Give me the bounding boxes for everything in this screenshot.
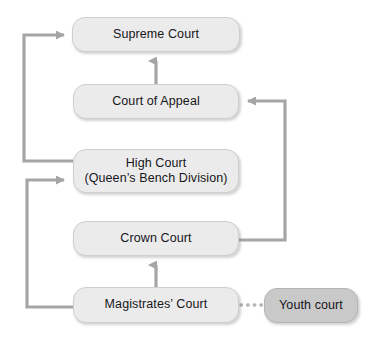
court-hierarchy-diagram: Supreme Court Court of Appeal High Court… <box>0 0 366 340</box>
node-youth-court-label: Youth court <box>273 298 349 314</box>
node-crown-court[interactable]: Crown Court <box>73 221 239 256</box>
node-magistrates-court-label: Magistrates’ Court <box>99 297 214 313</box>
node-supreme-court[interactable]: Supreme Court <box>72 17 240 52</box>
connector-high-court-to-supreme-court <box>24 35 73 161</box>
node-magistrates-court[interactable]: Magistrates’ Court <box>73 287 239 323</box>
node-high-court[interactable]: High Court (Queen’s Bench Division) <box>73 149 239 193</box>
node-court-of-appeal-label: Court of Appeal <box>106 94 206 110</box>
connector-magistrates-court-to-high-court <box>27 180 73 307</box>
connector-crown-court-to-court-of-appeal <box>239 101 285 240</box>
node-court-of-appeal[interactable]: Court of Appeal <box>73 84 239 119</box>
node-supreme-court-label: Supreme Court <box>107 27 205 43</box>
node-high-court-label: High Court (Queen’s Bench Division) <box>78 156 233 187</box>
node-youth-court[interactable]: Youth court <box>264 288 358 323</box>
node-crown-court-label: Crown Court <box>114 231 197 247</box>
